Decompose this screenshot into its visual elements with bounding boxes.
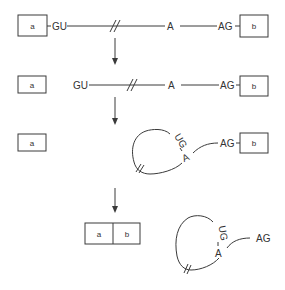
exon-a-box: a xyxy=(18,134,46,151)
exon-b-label: b xyxy=(252,139,257,148)
exon-b-box: b xyxy=(240,133,268,153)
exon-a-label: a xyxy=(97,230,102,239)
branch-point-label: A xyxy=(215,248,222,259)
branch-point-label: A xyxy=(167,21,174,32)
acceptor-site-label: AG xyxy=(220,80,235,91)
exon-b-label: b xyxy=(252,22,257,31)
acceptor-site-label: AG xyxy=(218,21,233,32)
exon-a-box: a xyxy=(18,15,47,36)
branch-point-label: A xyxy=(168,80,175,91)
spliced-exons-box: a b xyxy=(85,223,140,244)
exon-a-box: a xyxy=(18,76,46,93)
arrow-down-icon xyxy=(112,97,118,125)
excised-lariat-loop xyxy=(176,216,219,270)
lariat-donor-label: UG xyxy=(216,225,229,242)
lariat-donor-label: UG xyxy=(172,131,189,150)
intron-tail xyxy=(227,238,250,248)
exon-a-label: a xyxy=(30,22,35,31)
exon-b-label: b xyxy=(125,230,130,239)
exon-b-box: b xyxy=(240,76,268,96)
exon-a-label: a xyxy=(30,139,35,148)
splicing-diagram: a GU A AG b a GU A xyxy=(0,0,285,290)
step-products: a b UG A AG xyxy=(85,216,271,274)
step-cleavage: a GU A AG b xyxy=(18,76,268,96)
exon-a-label: a xyxy=(30,81,35,90)
exon-b-label: b xyxy=(252,82,257,91)
step-precursor: a GU A AG b xyxy=(18,15,268,37)
acceptor-site-label: AG xyxy=(220,138,235,149)
acceptor-site-label: AG xyxy=(256,233,271,244)
intron-tail xyxy=(193,143,218,153)
donor-site-label: GU xyxy=(73,80,88,91)
arrow-down-icon xyxy=(112,38,118,65)
step-lariat-intermediate: a UG A AG b xyxy=(18,129,268,174)
donor-site-label: GU xyxy=(52,21,67,32)
arrow-down-icon xyxy=(112,188,118,213)
exon-b-box: b xyxy=(240,15,268,37)
branch-point-label: A xyxy=(180,151,191,164)
